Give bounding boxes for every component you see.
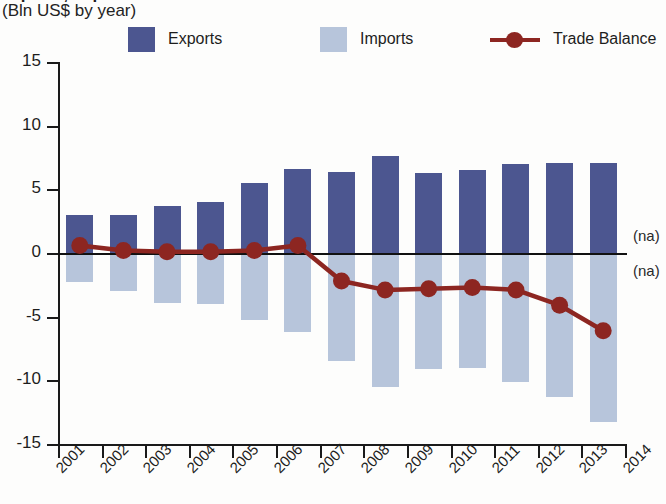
- trade-balance-point: [159, 243, 176, 260]
- trade-balance-point: [551, 297, 568, 314]
- trade-balance-point: [377, 281, 394, 298]
- trade-balance-point: [420, 280, 437, 297]
- trade-balance-point: [246, 242, 263, 259]
- trade-balance-point: [289, 237, 306, 254]
- plot-area: 151050-5-10-1520012002200320042005200620…: [0, 0, 666, 504]
- na-annotation: (na): [633, 262, 660, 279]
- trade-balance-point: [202, 243, 219, 260]
- trade-balance-point: [333, 273, 350, 290]
- trade-balance-point: [508, 281, 525, 298]
- trade-balance-line-layer: [0, 0, 666, 504]
- na-annotation: (na): [633, 227, 660, 244]
- trade-balance-point: [595, 322, 612, 339]
- trade-balance-point: [115, 242, 132, 259]
- trade-balance-point: [71, 237, 88, 254]
- chart-root: Exports, Imports and Trade Balance (Bln …: [0, 0, 666, 504]
- trade-balance-point: [464, 279, 481, 296]
